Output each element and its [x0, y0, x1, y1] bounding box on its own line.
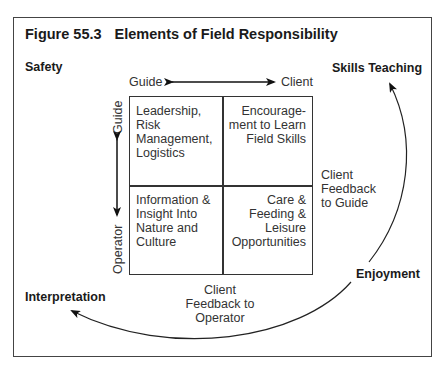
arc-arrow-to-interpretation	[72, 282, 351, 339]
diagram-arrows	[0, 0, 444, 372]
arc-arrow-to-skills-teaching	[369, 84, 407, 262]
